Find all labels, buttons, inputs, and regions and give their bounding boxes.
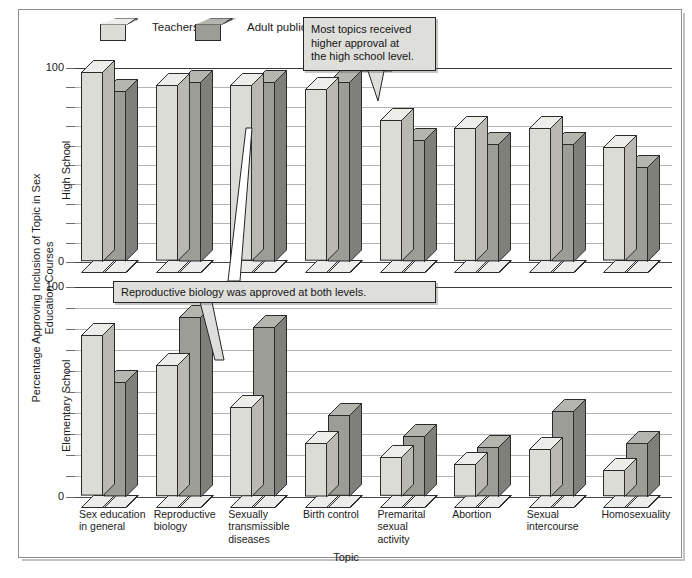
figure-sex-education-chart: Teachers Adult public 0100 0100 Percenta… bbox=[0, 0, 692, 578]
annotation-line: the high school level. bbox=[311, 50, 428, 64]
annotation-high-school-note: Most topics receivedhigher approval atth… bbox=[303, 17, 436, 71]
annotation-line: Reproductive biology was approved at bot… bbox=[121, 286, 428, 300]
annotation-line: higher approval at bbox=[311, 37, 428, 51]
annotation-reproductive-biology-note: Reproductive biology was approved at bot… bbox=[113, 281, 436, 303]
annotation-line: Most topics received bbox=[311, 23, 428, 37]
